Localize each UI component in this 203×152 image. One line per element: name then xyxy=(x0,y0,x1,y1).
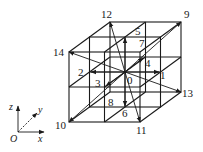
label-4: 4 xyxy=(145,57,151,69)
label-2: 2 xyxy=(78,66,84,78)
y-axis-label: y xyxy=(37,104,43,115)
axis-triad: z y x O xyxy=(8,101,44,144)
label-8: 8 xyxy=(108,96,114,108)
label-14: 14 xyxy=(53,46,65,58)
label-12: 12 xyxy=(101,8,112,20)
x-axis-label: x xyxy=(37,133,43,144)
label-6: 6 xyxy=(122,107,128,119)
lattice-diagram: 0 1 2 3 4 5 6 7 8 9 10 11 12 13 14 z y x… xyxy=(0,0,203,152)
label-7: 7 xyxy=(139,37,145,49)
y-axis xyxy=(18,113,37,132)
origin-label: O xyxy=(10,133,17,144)
label-9: 9 xyxy=(184,8,190,20)
label-1: 1 xyxy=(160,69,166,81)
label-13: 13 xyxy=(182,87,194,99)
label-0: 0 xyxy=(127,74,133,86)
label-3: 3 xyxy=(95,77,101,89)
arrow-13 xyxy=(125,72,181,92)
arrow-9 xyxy=(125,22,181,72)
label-10: 10 xyxy=(55,119,67,131)
label-5: 5 xyxy=(135,25,141,37)
z-axis-label: z xyxy=(8,101,13,112)
center-node xyxy=(124,71,127,74)
label-11: 11 xyxy=(136,124,147,136)
